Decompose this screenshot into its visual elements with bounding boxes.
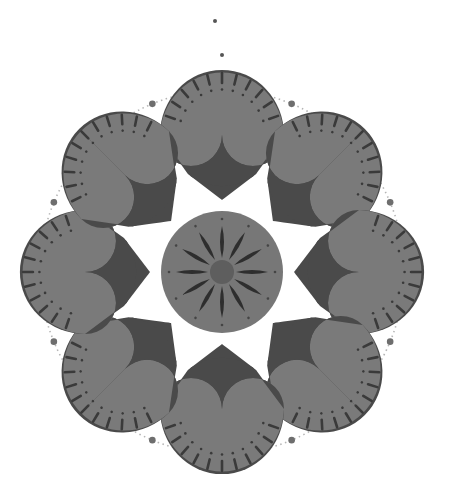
ring-dot — [51, 199, 58, 206]
ring-dot — [288, 101, 295, 108]
center-hub — [210, 260, 234, 284]
petal-dot — [372, 312, 375, 315]
petal-dot — [398, 292, 401, 295]
petal — [160, 344, 284, 474]
petal-dot — [221, 453, 224, 456]
ring-dot — [387, 338, 394, 345]
petal-dot — [250, 100, 253, 103]
petal-dot — [257, 109, 260, 112]
petal-dot — [402, 281, 405, 284]
petal-dot — [44, 250, 47, 253]
petal-dot — [50, 300, 53, 303]
petal-dot — [231, 90, 234, 93]
ring-dot — [51, 338, 58, 345]
petal-dot — [250, 441, 253, 444]
petal-dot — [50, 241, 53, 244]
petal-dot — [40, 260, 43, 263]
petal-dot — [231, 452, 234, 455]
petal-dot — [200, 448, 203, 451]
petal-dot — [402, 260, 405, 263]
petal-dot — [391, 300, 394, 303]
top-dot — [220, 53, 224, 57]
ring-dot — [387, 199, 394, 206]
petal-dot — [184, 432, 187, 435]
petal-dot — [391, 241, 394, 244]
ring-dot — [288, 437, 295, 444]
petal-dot — [210, 452, 213, 455]
petal-dot — [38, 271, 41, 274]
petal-dot — [200, 94, 203, 97]
petal-dot — [257, 432, 260, 435]
petal-dot — [179, 422, 182, 425]
petal-dot — [221, 88, 224, 91]
petal — [294, 210, 424, 334]
petal-dot — [70, 229, 73, 232]
petal-dot — [59, 307, 62, 310]
petal-dot — [44, 292, 47, 295]
petal-dot — [191, 441, 194, 444]
petal-dot — [398, 250, 401, 253]
petal-dot — [70, 312, 73, 315]
petal-dot — [179, 120, 182, 123]
mandala-illustration — [0, 0, 449, 478]
petal-dot — [262, 120, 265, 123]
petal-dot — [59, 234, 62, 237]
petal-dot — [262, 422, 265, 425]
petal-dot — [382, 234, 385, 237]
petal-dot — [184, 109, 187, 112]
petal-dot — [210, 90, 213, 93]
petal-dot — [242, 94, 245, 97]
petal-dot — [403, 271, 406, 274]
petal-dot — [242, 448, 245, 451]
petal-dot — [40, 281, 43, 284]
petal-dot — [191, 100, 194, 103]
mandala-artwork — [0, 0, 449, 478]
petal-dot — [372, 229, 375, 232]
petal — [160, 70, 284, 200]
top-dot — [213, 19, 217, 23]
ring-dot — [149, 437, 156, 444]
petal-dot — [382, 307, 385, 310]
ring-dot — [149, 101, 156, 108]
petal — [20, 210, 150, 334]
